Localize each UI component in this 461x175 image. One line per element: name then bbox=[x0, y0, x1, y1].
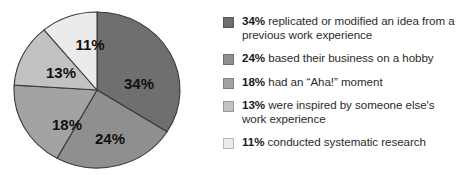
pie-chart: 34%24%18%13%11% bbox=[13, 11, 183, 169]
pie-chart-svg: 34%24%18%13%11% bbox=[13, 11, 183, 169]
legend-item-percent: 34% bbox=[242, 14, 265, 27]
legend-item-label: 11% conducted systematic research bbox=[242, 135, 426, 149]
legend: 34% replicated or modified an idea from … bbox=[223, 14, 455, 149]
legend-item[interactable]: 11% conducted systematic research bbox=[223, 135, 455, 149]
legend-item-description: had an “Aha!” moment bbox=[265, 75, 383, 88]
legend-item-label: 24% based their business on a hobby bbox=[242, 51, 434, 65]
legend-swatch-icon bbox=[223, 78, 234, 89]
legend-swatch-icon bbox=[223, 54, 234, 65]
legend-item-label: 18% had an “Aha!” moment bbox=[242, 75, 383, 89]
pie-slice-label: 13% bbox=[46, 64, 76, 81]
legend-item-label: 34% replicated or modified an idea from … bbox=[242, 14, 455, 42]
legend-item-description: conducted systematic research bbox=[264, 135, 426, 148]
legend-swatch-icon bbox=[223, 17, 234, 28]
legend-swatch-icon bbox=[223, 101, 234, 112]
legend-item-percent: 13% bbox=[242, 98, 265, 111]
pie-slice-label: 24% bbox=[95, 130, 125, 147]
legend-item-percent: 11% bbox=[242, 135, 264, 148]
legend-item[interactable]: 18% had an “Aha!” moment bbox=[223, 75, 455, 89]
legend-item[interactable]: 34% replicated or modified an idea from … bbox=[223, 14, 455, 42]
pie-slice-label: 11% bbox=[75, 36, 104, 53]
pie-chart-figure: 34%24%18%13%11% 34% replicated or modifi… bbox=[0, 0, 461, 175]
legend-item-percent: 24% bbox=[242, 51, 265, 64]
legend-item-percent: 18% bbox=[242, 75, 265, 88]
legend-item-description: based their business on a hobby bbox=[265, 51, 434, 64]
legend-item[interactable]: 24% based their business on a hobby bbox=[223, 51, 455, 65]
legend-item-description: replicated or modified an idea from a pr… bbox=[242, 14, 455, 41]
pie-slice-label: 18% bbox=[52, 116, 82, 133]
legend-swatch-icon bbox=[223, 138, 234, 149]
legend-item-description: were inspired by someone else's work exp… bbox=[242, 98, 435, 125]
pie-slice-label: 34% bbox=[124, 75, 154, 92]
legend-item[interactable]: 13% were inspired by someone else's work… bbox=[223, 98, 455, 126]
legend-item-label: 13% were inspired by someone else's work… bbox=[242, 98, 455, 126]
